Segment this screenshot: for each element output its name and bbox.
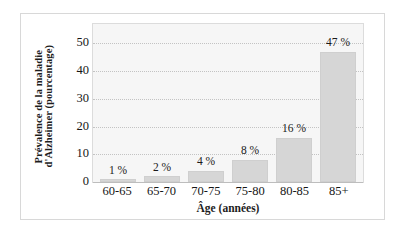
x-axis-tick-label: 60-65 bbox=[95, 185, 139, 198]
bar-value-label: 16 % bbox=[282, 123, 306, 135]
axis-baseline bbox=[93, 182, 363, 183]
bar-group: 47 % bbox=[316, 24, 360, 182]
x-axis-tick-label: 75-80 bbox=[228, 185, 272, 198]
x-axis-tick-label: 85+ bbox=[317, 185, 361, 198]
bar-group: 2 % bbox=[140, 24, 184, 182]
y-axis-tick-label: 40 bbox=[65, 64, 89, 77]
x-axis-tick-label: 65-70 bbox=[139, 185, 183, 198]
bar-group: 16 % bbox=[272, 24, 316, 182]
plot-area: 1 %2 %4 %8 %16 %47 % bbox=[92, 23, 364, 183]
y-axis-tick-labels: 01020304050 bbox=[65, 16, 89, 199]
bar-group: 8 % bbox=[228, 24, 272, 182]
bar[interactable] bbox=[320, 52, 357, 182]
y-axis-title-line-2: d'Alzheimer (pourcentage) bbox=[44, 45, 55, 168]
x-axis-tick-label: 70-75 bbox=[184, 185, 228, 198]
y-axis-tick-label: 20 bbox=[65, 119, 89, 132]
bar-value-label: 8 % bbox=[241, 145, 259, 157]
bar[interactable] bbox=[100, 179, 137, 182]
bar-series: 1 %2 %4 %8 %16 %47 % bbox=[93, 24, 363, 182]
figure-frame: Prévalence de la maladie d'Alzheimer (po… bbox=[20, 13, 385, 220]
bar[interactable] bbox=[188, 171, 225, 182]
bar-value-label: 2 % bbox=[153, 162, 171, 174]
y-axis-title: Prévalence de la maladie d'Alzheimer (po… bbox=[21, 14, 67, 199]
y-axis-tick-label: 50 bbox=[65, 36, 89, 49]
x-axis-tick-labels: 60-6565-7070-7575-8080-8585+ bbox=[92, 185, 364, 198]
x-axis-tick-label: 80-85 bbox=[272, 185, 316, 198]
bar[interactable] bbox=[232, 160, 269, 182]
bar-group: 4 % bbox=[184, 24, 228, 182]
y-axis-tick-label: 10 bbox=[65, 147, 89, 160]
bar-value-label: 4 % bbox=[197, 156, 215, 168]
bar-group: 1 % bbox=[96, 24, 140, 182]
bar[interactable] bbox=[276, 138, 313, 182]
bar[interactable] bbox=[144, 176, 181, 182]
bar-value-label: 47 % bbox=[326, 37, 350, 49]
x-axis-title: Âge (années) bbox=[92, 203, 364, 215]
y-axis-tick-label: 30 bbox=[65, 92, 89, 105]
y-axis-tick-label: 0 bbox=[65, 175, 89, 188]
bar-value-label: 1 % bbox=[109, 165, 127, 177]
